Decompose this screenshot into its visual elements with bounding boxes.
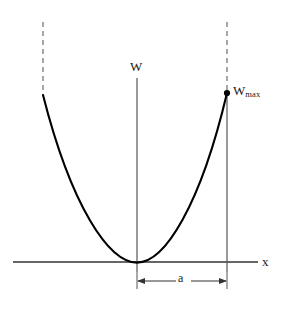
figure-canvas bbox=[0, 0, 288, 310]
dimension-a-label: a bbox=[178, 272, 183, 284]
dimension-arrow-head-left bbox=[137, 278, 145, 284]
wmax-label: Wmax bbox=[233, 84, 261, 97]
potential-energy-parabola bbox=[43, 93, 227, 263]
dimension-arrow-head-right bbox=[219, 278, 227, 284]
wmax-label-base: W bbox=[233, 83, 245, 98]
wmax-label-subscript: max bbox=[245, 89, 260, 99]
x-axis-label: x bbox=[262, 255, 269, 268]
w-axis-label: W bbox=[130, 60, 142, 73]
potential-well-figure: W x Wmax a bbox=[0, 0, 288, 310]
wmax-point-marker bbox=[224, 90, 230, 96]
